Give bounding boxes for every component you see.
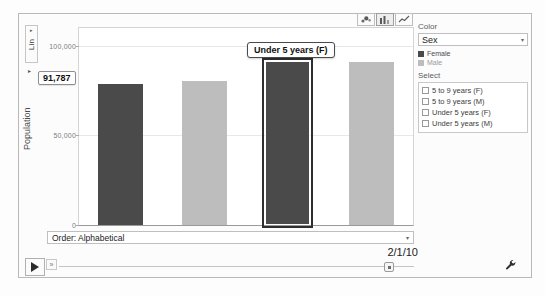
play-button[interactable]: [25, 258, 45, 276]
chart-plot-area[interactable]: 100,00050,0000: [78, 27, 414, 226]
app-root: ▸ Lin ▸ Population 100,00050,0000 91,787…: [0, 0, 545, 296]
select-checkbox-row[interactable]: Under 5 years (M): [422, 118, 524, 129]
order-dropdown[interactable]: Order: Alphabetical ▾: [47, 231, 414, 244]
chart-bar[interactable]: [265, 61, 310, 225]
y-tick-label: 50,000: [53, 132, 76, 139]
legend-label: Female: [427, 50, 450, 57]
handle-grip-icon: [388, 266, 391, 269]
y-tick-mark: [76, 225, 79, 226]
checkbox-icon[interactable]: [422, 87, 429, 94]
legend-swatch: [418, 51, 424, 57]
chart-bar[interactable]: [182, 81, 227, 225]
bar-tooltip: Under 5 years (F): [247, 42, 335, 58]
y-axis-title: Population: [22, 80, 32, 150]
legend: FemaleMale: [418, 49, 528, 67]
chevron-right-icon: ▸: [30, 28, 33, 33]
checkbox-label: Under 5 years (M): [432, 119, 492, 128]
select-checkbox-row[interactable]: 5 to 9 years (M): [422, 96, 524, 107]
legend-swatch: [418, 60, 424, 66]
chart-type-toolbar: [357, 13, 413, 26]
checkbox-label: Under 5 years (F): [432, 108, 491, 117]
legend-label: Male: [427, 59, 442, 66]
y-tick-label: 0: [72, 222, 76, 229]
order-dropdown-value: Order: Alphabetical: [52, 233, 124, 243]
value-callout: 91,787: [38, 71, 76, 85]
timeline-track[interactable]: [59, 266, 414, 267]
bubble-chart-icon[interactable]: [357, 13, 375, 26]
date-readout: 2/1/10: [370, 246, 418, 258]
y-tick-mark: [76, 46, 79, 47]
select-label: Select: [418, 71, 528, 80]
legend-item[interactable]: Female: [418, 49, 528, 58]
axis-scale-button[interactable]: ▸ Lin: [25, 25, 38, 63]
chevron-down-icon: ▾: [406, 234, 409, 241]
color-select-value: Sex: [422, 35, 438, 45]
y-tick-label: 100,000: [49, 42, 76, 49]
checkbox-icon[interactable]: [422, 120, 429, 127]
timeline-handle[interactable]: [384, 262, 394, 272]
y-tick-mark: [76, 135, 79, 136]
checkbox-label: 5 to 9 years (M): [432, 97, 485, 106]
line-chart-icon[interactable]: [395, 13, 413, 26]
select-checkbox-row[interactable]: Under 5 years (F): [422, 107, 524, 118]
legend-item[interactable]: Male: [418, 58, 528, 67]
select-checkbox-row[interactable]: 5 to 9 years (F): [422, 85, 524, 96]
bar-chart-icon[interactable]: [376, 13, 394, 26]
checkbox-label: 5 to 9 years (F): [432, 86, 483, 95]
color-select[interactable]: Sex ▾: [418, 33, 528, 46]
select-checkbox-list: 5 to 9 years (F)5 to 9 years (M)Under 5 …: [418, 82, 528, 133]
play-icon: [31, 262, 39, 272]
chart-bar[interactable]: [349, 62, 394, 225]
speed-icon: »: [50, 261, 54, 268]
side-panel: Color Sex ▾ FemaleMale Select 5 to 9 yea…: [418, 22, 528, 133]
axis-expand-icon[interactable]: ▸: [28, 68, 31, 74]
checkbox-icon[interactable]: [422, 98, 429, 105]
gridline: [79, 46, 413, 47]
color-label: Color: [418, 22, 528, 31]
chevron-down-icon: ▾: [521, 36, 524, 43]
chart-bar[interactable]: [98, 84, 143, 225]
settings-wrench-icon[interactable]: [504, 258, 518, 272]
checkbox-icon[interactable]: [422, 109, 429, 116]
axis-scale-label: Lin: [27, 38, 36, 49]
playback-speed-button[interactable]: »: [46, 259, 57, 270]
